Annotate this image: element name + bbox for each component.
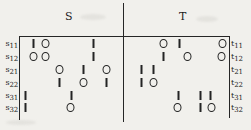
top-rule bbox=[19, 36, 230, 37]
row-label-sub: 32 bbox=[234, 106, 243, 114]
grid-mark: 1 bbox=[149, 65, 158, 75]
row-label-right: t12 bbox=[231, 50, 251, 63]
column-group-header-s: S bbox=[65, 11, 73, 23]
right-border-line bbox=[229, 36, 230, 118]
grid-mark: 0 bbox=[207, 103, 216, 113]
grid-mark: 1 bbox=[175, 39, 184, 49]
row-label-left: s11 bbox=[0, 37, 18, 50]
grid-mark: 0 bbox=[79, 78, 88, 88]
row-label-sub: 11 bbox=[9, 42, 18, 50]
grid-mark: 1 bbox=[21, 91, 30, 101]
center-divider-line bbox=[123, 3, 124, 122]
row-label-left: s21 bbox=[0, 63, 18, 76]
grid-mark: 0 bbox=[183, 52, 192, 62]
column-group-header-t: T bbox=[179, 11, 187, 23]
row-label-sub: 22 bbox=[234, 81, 243, 89]
row-label-right: t32 bbox=[231, 101, 251, 114]
grid-mark: 1 bbox=[102, 78, 111, 88]
grid-mark: 0 bbox=[66, 103, 75, 113]
grid-mark: 1 bbox=[67, 91, 76, 101]
row-label-left: s12 bbox=[0, 50, 18, 63]
grid-mark: 0 bbox=[29, 52, 38, 62]
row-label-left: s32 bbox=[0, 101, 18, 114]
grid-mark: 1 bbox=[89, 52, 98, 62]
grid-mark: 1 bbox=[55, 78, 64, 88]
grid-mark: 0 bbox=[159, 39, 168, 49]
row-label-right: t21 bbox=[231, 63, 251, 76]
row-label-sub: 21 bbox=[234, 68, 243, 76]
grid-mark: 1 bbox=[137, 65, 146, 75]
grid-mark: 1 bbox=[196, 91, 205, 101]
grid-mark: 1 bbox=[21, 103, 30, 113]
row-label-sub: 11 bbox=[234, 42, 243, 50]
row-label-sub: 21 bbox=[9, 68, 18, 76]
grid-mark: 0 bbox=[41, 39, 50, 49]
grid-mark: 0 bbox=[149, 78, 158, 88]
grid-mark: 0 bbox=[41, 52, 50, 62]
scan-artifact bbox=[196, 16, 218, 22]
row-label-left: s22 bbox=[0, 76, 18, 89]
grid-mark: 1 bbox=[137, 78, 146, 88]
grid-mark: 1 bbox=[196, 103, 205, 113]
row-label-sub: 12 bbox=[9, 55, 18, 63]
grid-mark: 0 bbox=[55, 65, 64, 75]
grid-mark: 1 bbox=[29, 39, 38, 49]
figure-canvas: S T s11 t11 1 0 1 0 1 0 s12 t12 0 0 1 1 … bbox=[0, 0, 251, 130]
grid-mark: 0 bbox=[218, 39, 227, 49]
row-label-right: t11 bbox=[231, 37, 251, 50]
grid-mark: 1 bbox=[174, 91, 183, 101]
grid-mark: 0 bbox=[217, 52, 226, 62]
row-label-sub: 22 bbox=[9, 81, 18, 89]
row-label-sub: 32 bbox=[9, 106, 18, 114]
grid-mark: 1 bbox=[79, 65, 88, 75]
grid-mark: 0 bbox=[173, 103, 182, 113]
grid-mark: 1 bbox=[89, 39, 98, 49]
row-label-sub: 12 bbox=[234, 55, 243, 63]
grid-mark: 0 bbox=[102, 65, 111, 75]
row-label-right: t22 bbox=[231, 76, 251, 89]
grid-mark: 1 bbox=[159, 52, 168, 62]
scan-artifact bbox=[6, 120, 36, 125]
scan-artifact bbox=[80, 14, 106, 20]
grid-mark: 1 bbox=[206, 91, 215, 101]
